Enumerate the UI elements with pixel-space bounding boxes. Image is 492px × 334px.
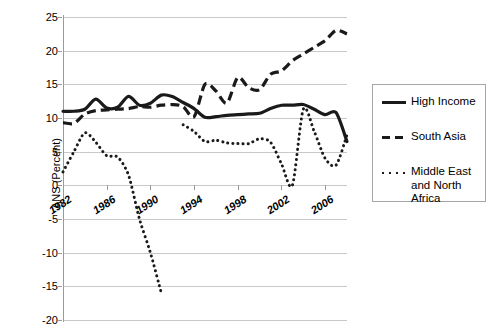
legend-swatch-dashed	[380, 130, 408, 144]
series-line-high-income	[63, 95, 347, 142]
plot-wrapper: 2520151050-5-10-15-20 198219861990199419…	[0, 0, 360, 334]
legend-swatch-solid	[380, 95, 408, 109]
series-line-middle-east-and-north-africa	[63, 133, 161, 293]
legend-label-middle-east-north-africa: Middle East and North Africa	[411, 165, 471, 206]
legend-item-south-asia: South Asia	[380, 130, 466, 144]
chart-figure: 2520151050-5-10-15-20 198219861990199419…	[0, 0, 492, 334]
legend-swatch-dotted	[380, 165, 408, 179]
legend-item-middle-east-north-africa: Middle East and North Africa	[380, 165, 471, 206]
legend-label-south-asia: South Asia	[411, 130, 466, 144]
chart-legend: High Income South Asia Middle East and N…	[372, 84, 486, 202]
legend-label-high-income: High Income	[411, 95, 476, 109]
legend-item-high-income: High Income	[380, 95, 476, 109]
series-line-middle-east-and-north-africa	[183, 108, 347, 187]
